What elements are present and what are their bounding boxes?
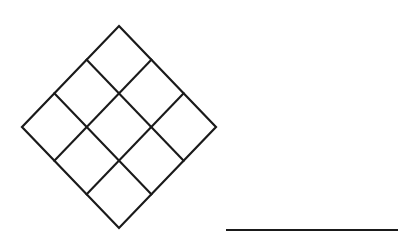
canvas-background xyxy=(0,0,410,236)
diagram-canvas xyxy=(0,0,410,236)
